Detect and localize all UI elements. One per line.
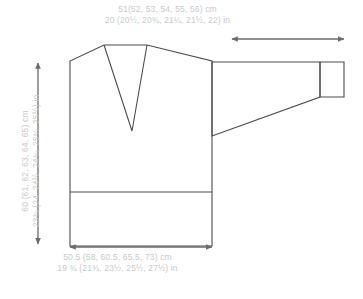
body-length-label: 60 (61, 62, 63, 64, 65) cm 23¾ (24, 24½,…	[20, 61, 42, 261]
body-width-cm: 50.5 (58, 60.5, 65.5, 73) cm	[0, 252, 235, 263]
body-outline	[70, 45, 212, 246]
sleeve-width-label: 51(52, 53, 54, 55, 56) cm 20 (20½, 20¾, …	[0, 4, 363, 26]
schematic-diagram: 51(52, 53, 54, 55, 56) cm 20 (20½, 20¾, …	[0, 0, 363, 299]
sleeve-outline	[212, 62, 320, 136]
body-width-label: 50.5 (58, 60.5, 65.5, 73) cm 19 ¾ (21¾, …	[0, 252, 363, 274]
body-width-in: 19 ¾ (21¾, 23½, 25½, 27½) in	[0, 263, 235, 274]
sleeve-width-cm: 51(52, 53, 54, 55, 56) cm	[0, 4, 335, 15]
sleeve-width-in: 20 (20½, 20¾, 21¼, 21½, 22) in	[0, 15, 335, 26]
body-length-cm: 60 (61, 62, 63, 64, 65) cm	[20, 61, 31, 261]
body-length-in: 23¾ (24, 24½, 24¾, 25¼, 25½) in	[31, 61, 42, 261]
v-neckline	[104, 45, 147, 131]
cuff-outline	[320, 62, 344, 97]
